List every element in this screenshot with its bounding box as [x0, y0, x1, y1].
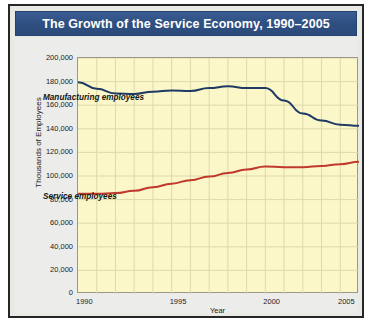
y-tick-label: 140,000: [3, 123, 73, 132]
x-tick-label: 2005: [338, 297, 355, 306]
x-axis-label: Year: [77, 306, 358, 315]
y-gridlines: [78, 58, 359, 270]
series-line: [78, 82, 359, 126]
chart-area: Thousands of Employees 20,00040,00060,00…: [15, 38, 357, 313]
series-label-manufacturing: Manufacturing employees: [43, 93, 144, 102]
y-tick-label: 180,000: [3, 76, 73, 85]
series-line: [78, 162, 359, 194]
x-tick-label: 1990: [76, 297, 93, 306]
y-tick-label: 200,000: [3, 53, 73, 62]
y-axis-zero-tick: 0: [3, 288, 73, 297]
y-tick-label: 20,000: [3, 265, 73, 274]
y-tick-label: 100,000: [3, 171, 73, 180]
y-tick-label: 60,000: [3, 218, 73, 227]
x-tick-label: 2000: [263, 297, 280, 306]
page-title: The Growth of the Service Economy, 1990–…: [42, 17, 330, 31]
y-tick-label: 120,000: [3, 147, 73, 156]
chart-title-bar: The Growth of the Service Economy, 1990–…: [15, 11, 357, 36]
chart-figure: The Growth of the Service Economy, 1990–…: [8, 4, 364, 318]
series-label-service: Service employees: [43, 192, 117, 201]
y-tick-label: 40,000: [3, 241, 73, 250]
x-tick-label: 1995: [170, 297, 187, 306]
